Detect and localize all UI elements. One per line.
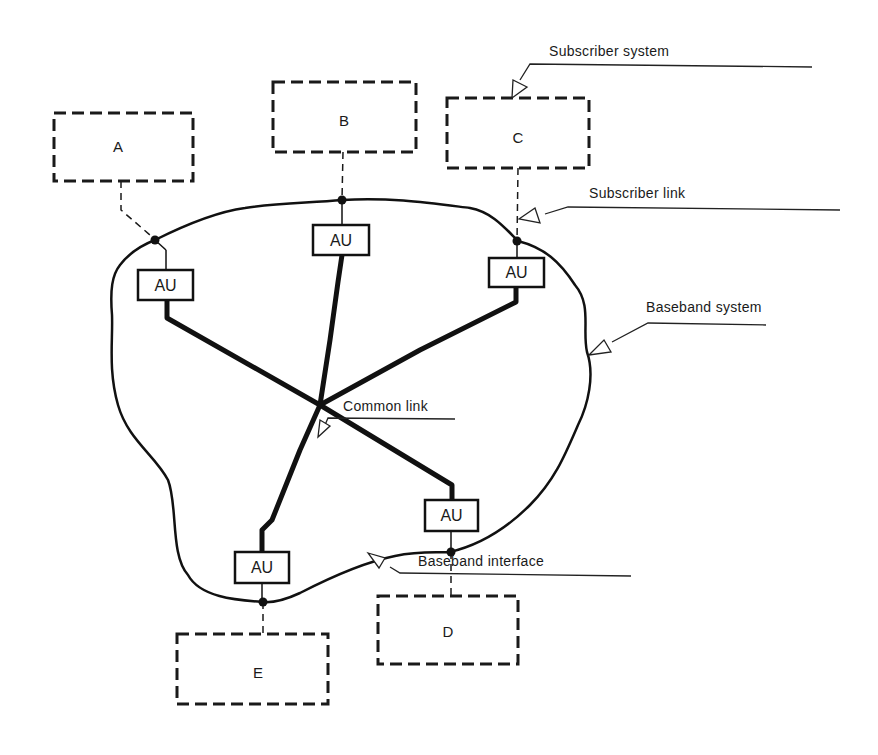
subscriber-system-E[interactable]: E [177,634,328,704]
subscriber-system-B[interactable]: B [273,82,416,152]
access-unit-A[interactable]: AU [138,270,193,300]
arrow-icon [512,80,527,98]
au-stems [155,200,517,602]
access-unit-D[interactable]: AU [425,500,478,531]
subscriber-label-C: C [513,129,524,146]
access-unit-B[interactable]: AU [313,225,369,255]
annotation-label: Subscriber system [549,43,669,59]
annotation-baseband-system: Baseband system [589,299,766,355]
subscriber-label-A: A [113,138,123,155]
annotation-label: Common link [343,398,429,414]
access-unit-E[interactable]: AU [235,552,289,583]
au-label: AU [251,559,273,576]
annotation-baseband-interface: Baseband interface [368,553,631,576]
subscriber-system-C[interactable]: C [447,98,589,168]
interface-dot-C [513,237,522,246]
interface-dot-B [338,196,347,205]
arrow-icon [318,420,330,437]
subscriber-system-D[interactable]: D [378,596,518,664]
subscriber-label-B: B [339,112,349,129]
annotation-common-link: Common link [318,398,455,437]
annotation-label: Baseband interface [418,553,544,569]
au-label: AU [505,264,527,281]
annotation-label: Baseband system [646,299,762,315]
arrow-icon [519,208,540,223]
subscriber-label-D: D [443,623,454,640]
au-label: AU [440,507,462,524]
arrow-icon [589,340,611,355]
interface-dot-A [151,236,160,245]
baseband-network-diagram: A B C D E A [0,0,878,755]
baseband-interface-points [151,196,522,607]
interface-dot-E [259,598,268,607]
arrow-icon [368,553,385,568]
au-label: AU [330,232,352,249]
subscriber-label-E: E [253,664,263,681]
au-label: AU [154,277,176,294]
subscriber-system-A[interactable]: A [54,113,193,181]
annotation-subscriber-system: Subscriber system [512,43,812,98]
annotation-label: Subscriber link [589,185,686,201]
annotation-subscriber-link: Subscriber link [519,185,840,223]
access-unit-C[interactable]: AU [489,258,544,287]
